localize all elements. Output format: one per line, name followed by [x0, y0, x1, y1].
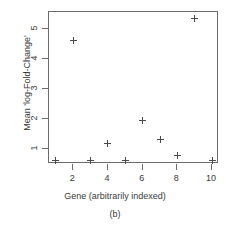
y-axis-tick [42, 58, 48, 59]
y-axis-tick [42, 118, 48, 119]
y-axis-tick [42, 28, 48, 29]
x-axis-tick-label: 2 [64, 173, 80, 184]
plot-frame [48, 11, 218, 163]
x-axis-tick [142, 164, 143, 170]
y-axis-tick-label: 1 [29, 142, 39, 154]
data-point [70, 37, 77, 44]
x-axis-tick-label: 6 [134, 173, 150, 184]
data-point [122, 157, 129, 164]
data-point [139, 117, 146, 124]
data-point [104, 140, 111, 147]
y-axis-tick-label: 5 [29, 22, 39, 34]
x-axis-tick [176, 164, 177, 170]
data-point [157, 136, 164, 143]
data-point [52, 157, 59, 164]
x-axis-tick-label: 10 [203, 173, 219, 184]
y-axis-tick-label: 2 [29, 112, 39, 124]
data-point [209, 157, 216, 164]
y-axis-tick-label: 3 [29, 82, 39, 94]
y-axis-tick [42, 148, 48, 149]
x-axis-tick [211, 164, 212, 170]
plot-area [49, 12, 217, 162]
x-axis-tick [72, 164, 73, 170]
scatter-plot-figure: Mean 'log-Fold-Change' 12345 246810 Gene… [0, 0, 230, 226]
y-axis-tick-label: 4 [29, 52, 39, 64]
x-axis-tick [107, 164, 108, 170]
data-point [87, 157, 94, 164]
x-axis-label: Gene (arbitrarily indexed) [0, 191, 230, 201]
data-point [174, 152, 181, 159]
x-axis-tick-label: 4 [99, 173, 115, 184]
figure-caption: (b) [0, 209, 230, 219]
y-axis-tick [42, 88, 48, 89]
x-axis-tick-label: 8 [168, 173, 184, 184]
data-point [191, 15, 198, 22]
